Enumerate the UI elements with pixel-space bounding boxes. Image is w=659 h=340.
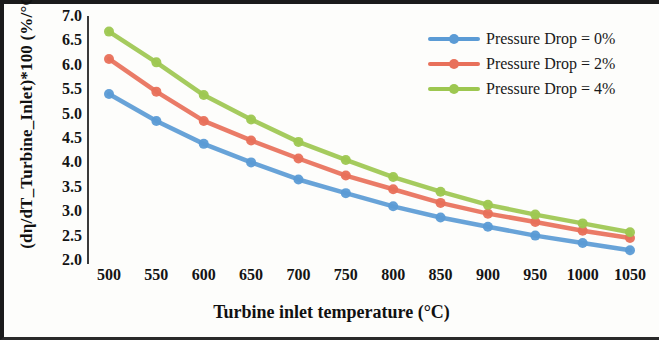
legend-item[interactable]: Pressure Drop = 4% bbox=[428, 76, 615, 101]
legend: Pressure Drop = 0%Pressure Drop = 2%Pres… bbox=[428, 26, 615, 101]
data-point bbox=[436, 198, 446, 208]
legend-symbol-icon bbox=[428, 32, 480, 46]
data-point bbox=[199, 116, 209, 126]
data-point bbox=[483, 200, 493, 210]
data-point bbox=[530, 231, 540, 241]
data-point bbox=[341, 155, 351, 165]
y-tick-label: 5.5 bbox=[42, 80, 82, 98]
data-point bbox=[293, 137, 303, 147]
y-tick-label: 5.0 bbox=[42, 105, 82, 123]
data-point bbox=[388, 184, 398, 194]
data-point bbox=[436, 213, 446, 223]
data-point bbox=[293, 153, 303, 163]
y-tick-label: 2.0 bbox=[42, 251, 82, 269]
data-point bbox=[199, 139, 209, 149]
x-axis-title: Turbine inlet temperature (°C) bbox=[4, 302, 659, 323]
chart-figure: (dη/dT_Turbine_Inlet)*100 (%/°C) 7.06.56… bbox=[0, 0, 659, 340]
x-tick-label: 1050 bbox=[600, 266, 659, 284]
data-point bbox=[151, 87, 161, 97]
legend-label: Pressure Drop = 4% bbox=[486, 80, 615, 98]
data-point bbox=[104, 27, 114, 37]
y-tick-label: 7.0 bbox=[42, 7, 82, 25]
data-point bbox=[578, 238, 588, 248]
data-point bbox=[199, 90, 209, 100]
y-tick-label: 4.0 bbox=[42, 153, 82, 171]
data-point bbox=[151, 57, 161, 67]
data-point bbox=[388, 201, 398, 211]
y-tick-label: 3.0 bbox=[42, 202, 82, 220]
y-axis-title: (dη/dT_Turbine_Inlet)*100 (%/°C) bbox=[13, 0, 41, 278]
data-point bbox=[483, 222, 493, 232]
data-point bbox=[341, 171, 351, 181]
data-point bbox=[483, 209, 493, 219]
data-point bbox=[246, 114, 256, 124]
data-point bbox=[246, 135, 256, 145]
legend-symbol-icon bbox=[428, 57, 480, 71]
legend-item[interactable]: Pressure Drop = 0% bbox=[428, 26, 615, 51]
y-tick-label: 3.5 bbox=[42, 178, 82, 196]
legend-label: Pressure Drop = 0% bbox=[486, 30, 615, 48]
data-point bbox=[151, 116, 161, 126]
data-point bbox=[436, 187, 446, 197]
data-point bbox=[341, 188, 351, 198]
data-point bbox=[578, 218, 588, 228]
legend-label: Pressure Drop = 2% bbox=[486, 55, 615, 73]
y-tick-label: 6.5 bbox=[42, 31, 82, 49]
y-tick-label: 4.5 bbox=[42, 129, 82, 147]
legend-symbol-icon bbox=[428, 82, 480, 96]
legend-item[interactable]: Pressure Drop = 2% bbox=[428, 51, 615, 76]
y-tick-label: 2.5 bbox=[42, 227, 82, 245]
y-tick-label: 6.0 bbox=[42, 56, 82, 74]
data-point bbox=[388, 172, 398, 182]
data-point bbox=[293, 174, 303, 184]
data-point bbox=[530, 210, 540, 220]
data-point bbox=[104, 54, 114, 64]
data-point bbox=[625, 227, 635, 237]
data-point bbox=[104, 89, 114, 99]
data-point bbox=[625, 245, 635, 255]
data-point bbox=[246, 157, 256, 167]
